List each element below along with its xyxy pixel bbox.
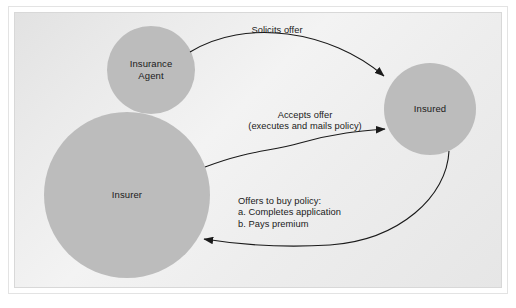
edge-label-solicits-offer: Solicits offer <box>217 25 337 36</box>
node-label-insured: Insured <box>390 103 470 115</box>
diagram-page: Insurance Agent Insurer Insured Solicits… <box>0 0 516 308</box>
node-label-insurer: Insurer <box>87 189 167 201</box>
diagram-canvas <box>0 0 516 308</box>
edge-label-accepts-offer: Accepts offer (executes and mails policy… <box>225 110 385 133</box>
edge-solicits-offer <box>190 32 384 76</box>
node-label-insurance-agent: Insurance Agent <box>111 58 191 81</box>
edge-label-offers-to-buy-policy: Offers to buy policy: a. Completes appli… <box>238 196 388 230</box>
edge-accepts-offer <box>205 129 385 167</box>
